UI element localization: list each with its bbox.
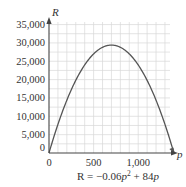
y-tick-label: 10,000 — [16, 111, 45, 122]
y-tick-labels: 05,00010,00015,00020,00025,00030,00035,0… — [16, 19, 45, 153]
revenue-parabola-chart: 05,00010,00015,00020,00025,00030,00035,0… — [0, 0, 186, 187]
x-axis-label: p — [176, 148, 183, 160]
y-tick-label: 20,000 — [16, 74, 45, 85]
y-tick-label: 25,000 — [16, 56, 45, 67]
grid-lines — [49, 22, 170, 153]
caption-lhs: R = −0.06 — [77, 170, 122, 182]
y-tick-label: 15,000 — [16, 92, 45, 103]
y-tick-label: 5,000 — [21, 129, 45, 140]
y-tick-label: 35,000 — [16, 19, 45, 30]
caption-mid: + 84 — [131, 170, 154, 182]
y-tick-label: 30,000 — [16, 37, 45, 48]
equation-caption: R = −0.06p2 + 84p — [77, 169, 159, 182]
x-tick-label: 500 — [86, 157, 102, 168]
y-axis-arrow-icon — [46, 17, 51, 24]
y-tick-label: 0 — [40, 142, 45, 153]
x-tick-label: 0 — [46, 157, 51, 168]
caption-var2: p — [152, 170, 159, 182]
y-axis-label: R — [51, 6, 59, 18]
x-tick-labels: 05001,000 — [46, 157, 150, 168]
x-tick-label: 1,000 — [126, 157, 150, 168]
